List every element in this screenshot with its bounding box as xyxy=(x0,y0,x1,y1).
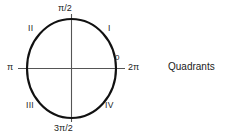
axis-label-two-pi: 2π xyxy=(128,63,139,72)
axis-label-pi-over-2: π/2 xyxy=(58,4,72,13)
quadrant-label-two: II xyxy=(28,24,33,33)
axis-label-three-pi-over-two: 3π/2 xyxy=(54,124,73,133)
quadrant-label-four: IV xyxy=(105,101,114,110)
axis-label-pi: π xyxy=(7,63,13,72)
axis-label-zero: 0 xyxy=(115,54,119,62)
quadrant-label-one: I xyxy=(108,24,111,33)
quadrant-label-three: III xyxy=(26,101,34,110)
unit-circle-quadrants-figure: π/2 π 2π 0 3π/2 I II III IV Quadrants xyxy=(0,0,225,140)
figure-caption: Quadrants xyxy=(168,62,215,72)
